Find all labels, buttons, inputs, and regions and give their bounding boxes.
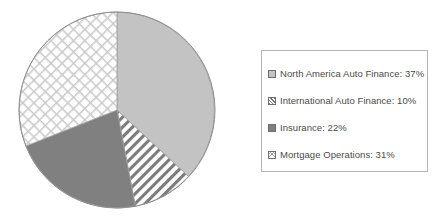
legend-item-international-auto-finance[interactable]: International Auto Finance: 10% [268,87,427,114]
legend-swatch-diagonal-stripes-icon [268,97,276,105]
legend-swatch-crosshatch-icon [268,151,276,159]
legend-item-north-america-auto-finance[interactable]: North America Auto Finance: 37% [268,60,427,87]
chart-legend: North America Auto Finance: 37% Internat… [261,50,428,172]
legend-item-mortgage-operations[interactable]: Mortgage Operations: 31% [268,141,427,168]
legend-label-mortgage-operations: Mortgage Operations: 31% [280,149,395,160]
pie-chart-graphic [0,0,240,220]
legend-swatch-solid-light-gray-icon [268,70,276,78]
legend-label-international-auto-finance: International Auto Finance: 10% [280,95,416,106]
legend-label-north-america-auto-finance: North America Auto Finance: 37% [280,68,424,79]
legend-label-insurance: Insurance: 22% [280,122,347,133]
legend-swatch-solid-dark-gray-icon [268,124,276,132]
legend-item-insurance[interactable]: Insurance: 22% [268,114,427,141]
pie-chart-figure: North America Auto Finance: 37% Internat… [0,0,445,220]
